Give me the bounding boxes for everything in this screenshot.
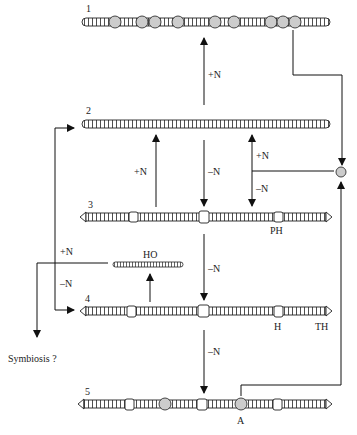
heterocyst: [127, 306, 136, 317]
label-plus-n-4: +N: [60, 246, 73, 257]
label-2: 2: [86, 105, 91, 116]
label-ho: HO: [143, 249, 157, 260]
heterocyst: [274, 306, 283, 317]
label-plus-n-1: +N: [208, 69, 221, 80]
label-minus-n-1: –N: [207, 166, 220, 177]
label-plus-n-3: +N: [256, 150, 269, 161]
label-4: 4: [85, 293, 90, 304]
label-minus-n-4: –N: [59, 278, 72, 289]
label-plus-n-2: +N: [134, 166, 147, 177]
label-h: H: [274, 321, 281, 332]
label-symbiosis: Symbiosis ?: [8, 353, 57, 364]
label-minus-n-2: –N: [255, 183, 268, 194]
proheterocyst: [129, 212, 138, 222]
filament-diagram: 1 2 3 4 5 PH H TH A HO Symbiosis ? +N +N…: [0, 0, 357, 435]
label-ph: PH: [270, 225, 283, 236]
label-th: TH: [315, 321, 328, 332]
filament-1: [82, 16, 330, 28]
heterocyst: [198, 305, 209, 317]
filament-2: [82, 120, 330, 128]
filament-3: [80, 211, 332, 223]
akinete: [159, 398, 171, 410]
label-a: A: [237, 415, 245, 426]
filament-4: [80, 305, 332, 317]
hormogonium: [113, 262, 183, 267]
label-3: 3: [88, 199, 93, 210]
proheterocyst: [274, 212, 283, 222]
akinete: [235, 398, 247, 410]
proheterocyst: [199, 211, 209, 223]
label-5: 5: [85, 386, 90, 397]
label-minus-n-5: –N: [207, 346, 220, 357]
akinete-isolated: [336, 167, 346, 177]
filament-5: [78, 398, 332, 410]
label-minus-n-3: –N: [207, 263, 220, 274]
label-1: 1: [86, 3, 91, 14]
